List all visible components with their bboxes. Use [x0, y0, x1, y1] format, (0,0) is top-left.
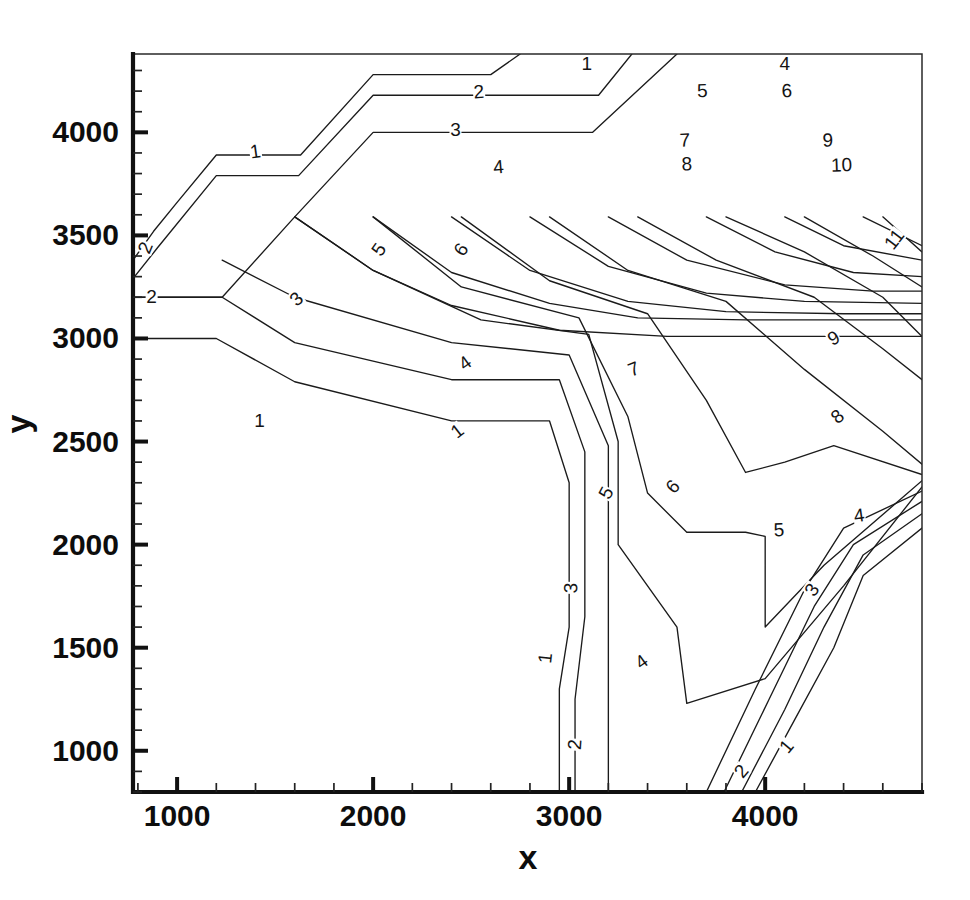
contour-label-group-item: 1: [253, 410, 265, 431]
contour-label-group-item: 8: [826, 405, 849, 429]
contour-label-group-item: 4: [492, 156, 506, 178]
contour-line: [222, 260, 608, 792]
y-tick-label: 4000: [52, 115, 119, 148]
contour-label: 7: [679, 129, 690, 150]
contour-line: [452, 217, 922, 314]
plot-canvas: 1000200030004000100015002000250030003500…: [0, 0, 970, 900]
contour-label-group-item: 11: [880, 225, 909, 254]
contour-label-group-item: 1: [774, 735, 798, 758]
contour-labels-group: 1234124567891011562311479856543314212: [133, 53, 908, 782]
contour-label: 3: [560, 582, 581, 593]
contour-label-group-item: 7: [678, 129, 691, 150]
contour-label-group-item: 7: [624, 357, 643, 381]
contour-label-group-item: 2: [564, 738, 586, 751]
y-tick-label: 3000: [52, 321, 119, 354]
contour-label-group-item: 4: [630, 650, 652, 674]
contour-label-group-item: 2: [146, 286, 158, 307]
contour-label: 11: [880, 225, 909, 253]
contour-line: [550, 217, 922, 464]
contour-label-group-item: 4: [454, 351, 476, 375]
contour-label-group-item: 5: [696, 80, 709, 101]
contour-label: 4: [853, 504, 867, 526]
contour-label: 6: [781, 80, 792, 101]
contour-label-group-item: 9: [822, 129, 835, 150]
contour-label-group-item: 5: [594, 483, 618, 503]
contour-plot-figure: 1000200030004000100015002000250030003500…: [0, 0, 970, 900]
axis-group: [133, 54, 922, 792]
contour-line: [133, 297, 585, 792]
contour-label-group-item: 10: [831, 154, 853, 176]
contour-label: 10: [831, 154, 853, 176]
contour-label: 9: [822, 129, 833, 150]
plot-frame-top-right: [133, 54, 922, 792]
x-tick-label: 1000: [144, 799, 211, 832]
contour-label: 5: [697, 80, 708, 101]
tick-labels-group: 1000200030004000100015002000250030003500…: [52, 115, 798, 832]
contour-label: 4: [455, 351, 476, 374]
contour-label-group-item: 5: [367, 239, 391, 261]
y-tick-label: 1000: [52, 734, 119, 767]
contour-label-group-item: 3: [449, 119, 461, 140]
y-tick-label: 2000: [52, 528, 119, 561]
contour-label: 8: [681, 153, 692, 174]
contour-label: 4: [779, 53, 790, 74]
y-tick-label: 2500: [52, 425, 119, 458]
contour-label-group-item: 8: [680, 153, 693, 174]
contour-line: [461, 217, 922, 475]
contour-line: [133, 338, 569, 792]
x-tick-label: 2000: [340, 799, 407, 832]
contour-label-group-item: 6: [780, 80, 793, 101]
contour-line: [804, 217, 922, 287]
x-tick-label: 3000: [536, 799, 603, 832]
contour-line: [608, 217, 922, 291]
contour-label-group-item: 6: [449, 239, 473, 261]
y-tick-label: 1500: [52, 631, 119, 664]
contour-label-group-item: 3: [285, 287, 308, 311]
contour-label-group-item: 1: [248, 140, 263, 162]
contour-label-group-item: 5: [772, 519, 785, 541]
contour-label-group-item: 4: [852, 504, 867, 526]
contour-line: [295, 217, 922, 337]
contour-label-group-item: 2: [472, 81, 485, 103]
contour-line: [133, 54, 677, 297]
contour-label: 4: [631, 650, 652, 673]
contour-line: [133, 54, 520, 260]
contour-label: 2: [473, 81, 485, 103]
contour-label-group-item: 2: [729, 760, 753, 783]
contour-label: 2: [564, 739, 586, 751]
contour-line: [742, 514, 922, 792]
contour-label-group-item: 9: [823, 326, 844, 350]
contour-lines-group: [133, 54, 922, 792]
contour-line: [724, 501, 922, 792]
contour-label-group-item: 1: [534, 651, 556, 665]
contour-label: 1: [534, 652, 556, 665]
y-tick-label: 3500: [52, 218, 119, 251]
contour-label-group-item: 4: [779, 53, 791, 74]
y-axis-title: y: [0, 414, 37, 433]
plot-frame-left-bottom: [133, 54, 922, 792]
contour-label-group-item: 1: [581, 53, 593, 74]
contour-label-group-item: 1: [446, 419, 468, 443]
contour-label: 1: [254, 410, 265, 431]
contour-label: 5: [773, 519, 785, 541]
contour-label: 3: [450, 119, 461, 140]
contour-label: 1: [582, 53, 593, 74]
contour-label: 2: [146, 286, 157, 307]
x-axis-title: x: [519, 838, 538, 876]
contour-label-group-item: 3: [560, 582, 581, 595]
contour-label-group-item: 6: [661, 475, 685, 498]
x-tick-label: 4000: [732, 799, 799, 832]
